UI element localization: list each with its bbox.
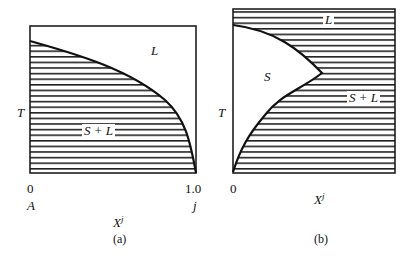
component-j-label: j [193, 199, 197, 212]
x-tick-0: 0 [230, 182, 237, 195]
region-label-s: S [264, 70, 271, 83]
y-axis-label-t: T [17, 106, 24, 119]
caption-a: (a) [113, 233, 126, 245]
component-a-label: A [27, 199, 35, 212]
panel-a-diagram [30, 26, 196, 173]
x-tick-1: 1.0 [185, 182, 201, 195]
region-label-l: L [323, 13, 334, 26]
y-axis-label-t: T [218, 106, 225, 119]
caption-b: (b) [314, 233, 328, 245]
region-label-l: L [151, 44, 158, 57]
x-tick-0: 0 [27, 182, 34, 195]
x-axis-label: Xj [314, 192, 324, 206]
phase-diagrams [0, 0, 412, 258]
x-axis-label: Xj [113, 215, 123, 229]
region-label-s-plus-l: S + L [347, 91, 380, 104]
region-label-s-plus-l: S + L [82, 124, 115, 137]
